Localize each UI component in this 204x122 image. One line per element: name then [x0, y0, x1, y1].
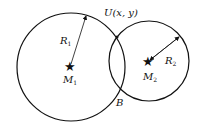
label-m1: M1	[62, 74, 77, 86]
radius-1-arrow	[71, 16, 86, 64]
label-r2: R2	[164, 55, 177, 67]
star-m1-icon: ★	[64, 59, 76, 74]
intersection-point-u	[116, 36, 119, 39]
star-m2-icon: ★	[142, 54, 154, 69]
label-b: B	[115, 97, 123, 108]
two-circles-diagram: ★ ★ R1 M1 R2 M2 U(x, y) B	[0, 0, 204, 122]
label-m2: M2	[142, 71, 157, 83]
label-u: U(x, y)	[104, 7, 138, 18]
label-r1: R1	[59, 35, 71, 47]
